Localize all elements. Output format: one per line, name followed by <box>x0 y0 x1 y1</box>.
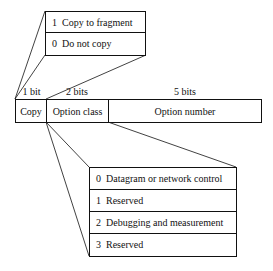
field-option-number: Option number <box>109 100 261 122</box>
copy-value-row: 1 Copy to fragment <box>46 12 145 33</box>
option-class-code: 3 <box>96 239 101 250</box>
field-option-class: Option class <box>47 100 109 122</box>
option-class-label: Datagram or network control <box>106 173 222 184</box>
copy-value-code: 0 <box>52 38 57 49</box>
option-class-label: Debugging and measurement <box>106 217 223 228</box>
option-class-label: Reserved <box>106 195 143 206</box>
copy-value-code: 1 <box>52 17 57 28</box>
copy-value-label: Do not copy <box>62 38 111 49</box>
field-copy: Copy <box>16 100 47 122</box>
copy-value-row: 0 Do not copy <box>46 33 145 54</box>
option-class-row: 0 Datagram or network control <box>90 168 236 190</box>
option-class-box: 0 Datagram or network control 1 Reserved… <box>89 167 237 257</box>
copy-values-box: 1 Copy to fragment 0 Do not copy <box>45 11 146 56</box>
option-class-code: 1 <box>96 195 101 206</box>
option-type-field: Copy Option class Option number <box>15 99 262 123</box>
option-class-row: 3 Reserved <box>90 234 236 255</box>
option-class-row: 1 Reserved <box>90 190 236 212</box>
bit-label-copy: 1 bit <box>17 86 46 97</box>
option-class-row: 2 Debugging and measurement <box>90 212 236 234</box>
copy-value-label: Copy to fragment <box>62 17 133 28</box>
option-class-code: 0 <box>96 173 101 184</box>
option-class-code: 2 <box>96 217 101 228</box>
bit-label-option-class: 2 bits <box>46 86 108 97</box>
option-class-label: Reserved <box>106 239 143 250</box>
bit-label-option-number: 5 bits <box>108 86 262 97</box>
